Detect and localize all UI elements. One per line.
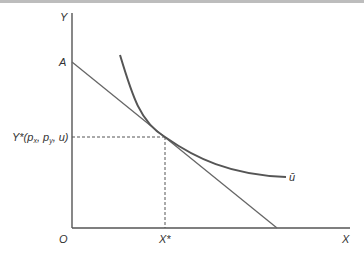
- x-star-label: X*: [158, 233, 171, 245]
- x-axis-label: X: [341, 233, 350, 245]
- origin-label: O: [59, 233, 68, 245]
- y-intercept-label: A: [58, 56, 66, 68]
- indifference-curve-label: ū: [289, 171, 295, 183]
- y-star-label: Y*(px, py, u): [12, 131, 69, 145]
- y-axis-label: Y: [60, 11, 68, 23]
- budget-line: [72, 62, 277, 228]
- indifference-curve: [120, 55, 286, 177]
- consumer-optimum-diagram: Y A Y*(px, py, u) O X* X ū: [0, 0, 364, 254]
